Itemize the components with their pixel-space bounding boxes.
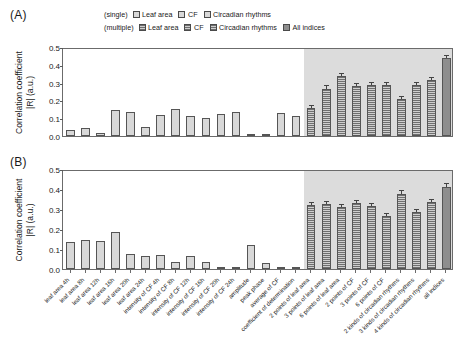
x-tick-mark bbox=[385, 270, 386, 273]
bar[interactable] bbox=[202, 118, 211, 136]
error-bar-cap bbox=[444, 55, 449, 56]
bar[interactable] bbox=[322, 89, 331, 136]
legend-entry[interactable]: Circadian rhythms bbox=[210, 23, 277, 32]
bar[interactable] bbox=[247, 134, 256, 136]
error-bar-cap bbox=[354, 83, 359, 84]
bar[interactable] bbox=[352, 86, 361, 136]
bar[interactable] bbox=[262, 134, 271, 136]
error-bar-cap bbox=[414, 82, 419, 83]
bar[interactable] bbox=[232, 267, 241, 269]
bar[interactable] bbox=[156, 115, 165, 136]
y-axis-title-line1: Correlation coefficient bbox=[14, 48, 24, 137]
bar[interactable] bbox=[232, 112, 241, 136]
bar[interactable] bbox=[292, 116, 301, 136]
error-bar-cap bbox=[384, 213, 389, 214]
bar[interactable] bbox=[66, 242, 75, 269]
legend-entry-label: Leaf area bbox=[142, 10, 172, 19]
bar[interactable] bbox=[337, 76, 346, 136]
bar[interactable] bbox=[96, 133, 105, 136]
bar[interactable] bbox=[307, 108, 316, 136]
bar[interactable] bbox=[292, 267, 301, 269]
bar[interactable] bbox=[126, 254, 135, 269]
bar[interactable] bbox=[307, 205, 316, 269]
bar[interactable] bbox=[352, 203, 361, 269]
bar[interactable] bbox=[66, 130, 75, 136]
bar[interactable] bbox=[156, 255, 165, 269]
bar[interactable] bbox=[111, 110, 120, 136]
bar[interactable] bbox=[141, 256, 150, 269]
legend-row-multiple: (multiple)Leaf areaCFCircadian rhythmsAl… bbox=[104, 22, 456, 33]
y-tick-mark bbox=[60, 101, 63, 102]
bar[interactable] bbox=[81, 240, 90, 269]
legend-entry[interactable]: Circadian rhythms bbox=[204, 10, 271, 19]
x-tick-mark bbox=[430, 270, 431, 273]
x-tick-mark bbox=[70, 270, 71, 273]
legend-entry[interactable]: All indices bbox=[283, 23, 325, 32]
legend-swatch-icon bbox=[184, 24, 191, 31]
bar[interactable] bbox=[126, 112, 135, 136]
legend-group-label: (single) bbox=[104, 10, 128, 19]
bar[interactable] bbox=[171, 262, 180, 269]
bar[interactable] bbox=[427, 80, 436, 136]
bar[interactable] bbox=[442, 58, 451, 136]
x-tick-mark bbox=[280, 270, 281, 273]
x-tick-mark bbox=[370, 270, 371, 273]
bar[interactable] bbox=[397, 99, 406, 136]
bar[interactable] bbox=[262, 263, 271, 269]
error-bar-cap bbox=[339, 73, 344, 74]
bar[interactable] bbox=[96, 241, 105, 269]
bar[interactable] bbox=[367, 85, 376, 136]
y-tick-label: 0.5 bbox=[49, 166, 60, 175]
bar[interactable] bbox=[171, 109, 180, 136]
legend-entry[interactable]: Leaf area bbox=[133, 10, 173, 19]
error-bar-cap bbox=[429, 77, 434, 78]
bar[interactable] bbox=[186, 256, 195, 269]
error-bar-cap bbox=[399, 190, 404, 191]
bar[interactable] bbox=[337, 207, 346, 269]
error-bar bbox=[416, 83, 417, 85]
y-tick-label: 0.0 bbox=[49, 266, 60, 275]
bar[interactable] bbox=[277, 267, 286, 269]
x-tick-mark bbox=[160, 270, 161, 273]
bar[interactable] bbox=[217, 267, 226, 269]
legend-row-single: (single)Leaf areaCFCircadian rhythms bbox=[104, 9, 456, 20]
bar[interactable] bbox=[412, 85, 421, 136]
error-bar-cap bbox=[369, 203, 374, 204]
legend-entry[interactable]: CF bbox=[184, 23, 203, 32]
x-tick-mark bbox=[100, 270, 101, 273]
legend-entry[interactable]: Leaf area bbox=[139, 23, 179, 32]
bar[interactable] bbox=[412, 212, 421, 269]
error-bar bbox=[401, 191, 402, 194]
x-tick-mark bbox=[145, 270, 146, 273]
error-bar bbox=[371, 83, 372, 85]
bar[interactable] bbox=[202, 262, 211, 269]
bar[interactable] bbox=[247, 245, 256, 269]
bar[interactable] bbox=[322, 204, 331, 269]
x-tick-mark bbox=[400, 270, 401, 273]
bar[interactable] bbox=[217, 114, 226, 136]
bar[interactable] bbox=[427, 202, 436, 269]
legend-entry[interactable]: CF bbox=[178, 10, 197, 19]
error-bar-cap bbox=[429, 199, 434, 200]
legend-group-label: (multiple) bbox=[104, 23, 134, 32]
bar[interactable] bbox=[397, 194, 406, 269]
bar[interactable] bbox=[382, 216, 391, 269]
y-tick-mark bbox=[60, 119, 63, 120]
bar[interactable] bbox=[111, 232, 120, 269]
x-tick-mark bbox=[415, 270, 416, 273]
bar[interactable] bbox=[186, 116, 195, 136]
y-tick-mark bbox=[60, 190, 63, 191]
legend-swatch-icon bbox=[133, 11, 140, 18]
x-tick-mark bbox=[190, 270, 191, 273]
bar[interactable] bbox=[277, 113, 286, 136]
bar[interactable] bbox=[141, 127, 150, 136]
bar[interactable] bbox=[367, 206, 376, 269]
bar[interactable] bbox=[81, 128, 90, 136]
bar[interactable] bbox=[382, 85, 391, 136]
bar[interactable] bbox=[442, 187, 451, 269]
legend-swatch-icon bbox=[283, 24, 290, 31]
error-bar bbox=[386, 214, 387, 216]
error-bar-cap bbox=[369, 82, 374, 83]
x-tick-mark bbox=[205, 270, 206, 273]
error-bar-cap bbox=[309, 105, 314, 106]
